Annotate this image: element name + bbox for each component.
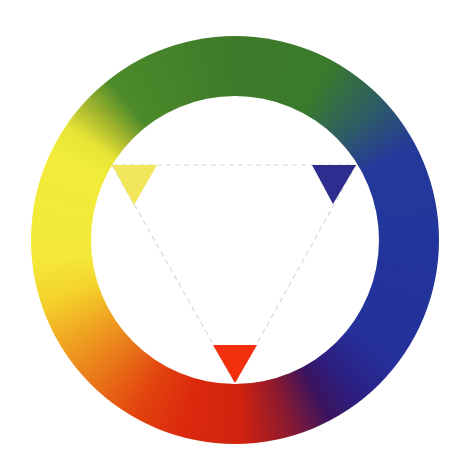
blue-triangle-marker	[312, 165, 356, 204]
color-wheel-diagram	[0, 0, 468, 476]
yellow-triangle-marker	[112, 165, 157, 205]
red-triangle-marker	[213, 345, 257, 383]
primary-triad-overlay	[0, 0, 468, 476]
